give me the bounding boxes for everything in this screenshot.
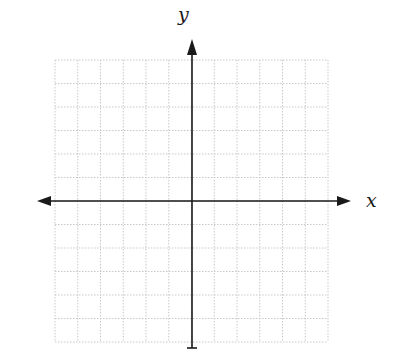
y-axis-label: y [178, 5, 189, 24]
x-axis-right-arrow-icon [337, 196, 351, 206]
y-axis [187, 39, 197, 348]
coordinate-plane [0, 0, 397, 351]
y-axis-up-arrow-icon [187, 39, 197, 55]
x-axis-label: x [366, 191, 377, 210]
x-axis [37, 196, 351, 206]
x-axis-left-arrow-icon [37, 196, 51, 206]
